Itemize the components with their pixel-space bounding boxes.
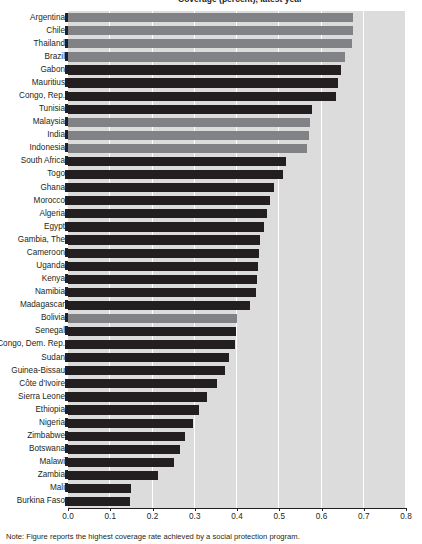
bar-row: Uganda xyxy=(0,260,422,273)
bar xyxy=(68,209,267,218)
y-axis-category-label: Namibia xyxy=(0,286,65,297)
bar-row: Sierra Leone xyxy=(0,390,422,403)
y-axis-category-label: Tunisia xyxy=(0,103,65,114)
bar xyxy=(68,379,217,388)
bar xyxy=(68,92,336,101)
y-axis-category-label: Thailand xyxy=(0,38,65,49)
bar xyxy=(68,262,258,271)
bar xyxy=(68,13,353,22)
bar-row: Côte d'Ivoire xyxy=(0,377,422,390)
x-axis-tick-label: 0.7 xyxy=(344,512,384,521)
y-axis-category-label: Togo xyxy=(0,168,65,179)
bar-row: Congo, Rep. xyxy=(0,89,422,102)
bar xyxy=(68,52,345,61)
bar-row: Ethiopia xyxy=(0,403,422,416)
chart-footnote-clipped: Note: Figure reports the highest coverag… xyxy=(0,533,422,544)
bar-row: Tunisia xyxy=(0,103,422,116)
y-axis-category-label: India xyxy=(0,129,65,140)
x-axis-tick xyxy=(364,508,365,511)
x-axis-tick xyxy=(237,508,238,511)
x-axis-tick xyxy=(322,508,323,511)
bar-row: Senegal xyxy=(0,325,422,338)
y-axis-category-label: Morocco xyxy=(0,195,65,206)
x-axis-tick xyxy=(153,508,154,511)
y-axis-category-label: Ghana xyxy=(0,182,65,193)
bar xyxy=(68,235,260,244)
y-axis-category-label: Gabon xyxy=(0,64,65,75)
bar xyxy=(68,484,131,493)
bar xyxy=(68,78,338,87)
bar-row: Brazil xyxy=(0,50,422,63)
bar-row: Namibia xyxy=(0,286,422,299)
bar-row: Thailand xyxy=(0,37,422,50)
bar xyxy=(68,288,256,297)
y-axis-category-label: Kenya xyxy=(0,273,65,284)
x-axis-tick-label: 0.2 xyxy=(133,512,173,521)
bar-row: Togo xyxy=(0,168,422,181)
bar xyxy=(68,183,274,192)
bar-row: Mali xyxy=(0,482,422,495)
bar xyxy=(68,275,257,284)
y-axis-category-label: Uganda xyxy=(0,260,65,271)
x-axis-tick xyxy=(279,508,280,511)
chart-title-clipped: Coverage (percent), latest year xyxy=(0,0,422,10)
bar-row: Malaysia xyxy=(0,116,422,129)
bar-row: Cameroon xyxy=(0,246,422,259)
y-axis-category-label: Chile xyxy=(0,25,65,36)
y-axis-category-label: Côte d'Ivoire xyxy=(0,378,65,389)
x-axis-tick xyxy=(195,508,196,511)
y-axis-category-label: Mauritius xyxy=(0,77,65,88)
bar-row: Ghana xyxy=(0,181,422,194)
y-axis-category-label: Ethiopia xyxy=(0,404,65,415)
bar-row: Guinea-Bissau xyxy=(0,364,422,377)
y-axis-category-label: Indonesia xyxy=(0,142,65,153)
bar-row: Botswana xyxy=(0,443,422,456)
bar-row: Argentina xyxy=(0,11,422,24)
y-axis-category-label: Mali xyxy=(0,482,65,493)
bar-row: Morocco xyxy=(0,194,422,207)
bar xyxy=(68,419,193,428)
bar-row: Burkina Faso xyxy=(0,495,422,508)
bar-row: Congo, Dem. Rep. xyxy=(0,338,422,351)
bar-row: Zimbabwe xyxy=(0,430,422,443)
bar xyxy=(68,458,174,467)
footnote-text: Note: Figure reports the highest coverag… xyxy=(6,533,418,541)
bar xyxy=(68,445,180,454)
bar xyxy=(68,144,307,153)
y-axis-category-label: Guinea-Bissau xyxy=(0,365,65,376)
bar xyxy=(68,249,259,258)
bar-row: Indonesia xyxy=(0,142,422,155)
y-axis-category-label: Bolivia xyxy=(0,312,65,323)
y-axis-category-label: Congo, Dem. Rep. xyxy=(0,338,65,349)
y-axis-category-label: Nigeria xyxy=(0,417,65,428)
bar xyxy=(68,327,236,336)
y-axis-category-label: Zambia xyxy=(0,469,65,480)
bar-row: Egypt xyxy=(0,220,422,233)
bar xyxy=(68,65,341,74)
bar-row: Chile xyxy=(0,24,422,37)
bar xyxy=(68,340,235,349)
y-axis-category-label: Sudan xyxy=(0,352,65,363)
bar xyxy=(68,26,353,35)
y-axis-category-label: Zimbabwe xyxy=(0,430,65,441)
y-axis-category-label: Argentina xyxy=(0,12,65,23)
y-axis-category-label: Madagascar xyxy=(0,299,65,310)
bar xyxy=(68,353,229,362)
bar xyxy=(68,170,283,179)
bar-row: Malawi xyxy=(0,456,422,469)
y-axis-category-label: Burkina Faso xyxy=(0,495,65,506)
x-axis-tick-label: 0.8 xyxy=(386,512,422,521)
bar-row: Nigeria xyxy=(0,416,422,429)
bar xyxy=(68,432,185,441)
x-axis-tick-label: 0.6 xyxy=(302,512,342,521)
bar-row: Kenya xyxy=(0,273,422,286)
y-axis-category-label: Botswana xyxy=(0,443,65,454)
y-axis-category-label: Cameroon xyxy=(0,247,65,258)
bar-row: Sudan xyxy=(0,351,422,364)
y-axis-category-label: South Africa xyxy=(0,155,65,166)
bar xyxy=(68,131,309,140)
bar xyxy=(68,497,130,506)
y-axis-category-label: Malaysia xyxy=(0,116,65,127)
y-axis-category-label: Congo, Rep. xyxy=(0,90,65,101)
x-axis-tick-label: 0.5 xyxy=(259,512,299,521)
